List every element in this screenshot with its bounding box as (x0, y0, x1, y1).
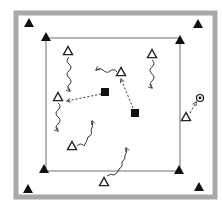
dribble-arrow (107, 148, 127, 176)
cones (23, 18, 204, 193)
player-triangle-icon (54, 93, 63, 101)
dribble-arrow (150, 60, 154, 88)
player-triangle-icon (182, 113, 191, 121)
player-triangle-icon (68, 142, 77, 150)
defenders (101, 88, 139, 117)
inner-grid-square (46, 38, 180, 171)
dribble-arrow (77, 121, 93, 146)
pass-arrow (190, 102, 196, 113)
defender-square-icon (131, 109, 139, 117)
cone-icon (23, 184, 33, 193)
player-triangle-icon (100, 178, 109, 186)
cone-icon (194, 182, 204, 191)
cone-icon (174, 165, 184, 174)
movement-lines (56, 57, 196, 176)
ball (197, 95, 204, 102)
player-triangle-icon (64, 47, 73, 55)
cone-icon (41, 32, 51, 41)
defender-square-icon (101, 88, 109, 96)
drill-canvas (0, 0, 222, 209)
player-triangle-icon (117, 68, 126, 76)
dribble-arrow (67, 57, 71, 91)
ball-icon-center (199, 97, 202, 100)
cone-icon (24, 18, 34, 27)
cone-icon (175, 35, 185, 44)
drill-diagram (0, 0, 222, 209)
cone-icon (39, 164, 49, 173)
dribble-arrow (56, 103, 60, 131)
player-triangle-icon (148, 50, 157, 58)
cone-icon (193, 19, 203, 28)
dribble-arrow (96, 69, 117, 73)
pass-arrow (67, 94, 101, 101)
pass-arrow (121, 79, 133, 108)
